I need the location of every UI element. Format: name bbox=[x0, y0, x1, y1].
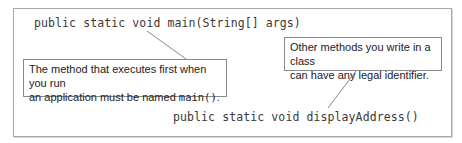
code-line-main: public static void main(String[] args) bbox=[34, 16, 301, 30]
callout-main-code: main() bbox=[179, 91, 217, 103]
callout-main-period: . bbox=[217, 91, 220, 103]
callout-other-line1: Other methods you write in a class bbox=[290, 40, 436, 68]
callout-main-line1: The method that executes first when you … bbox=[29, 62, 221, 90]
callout-main-method: The method that executes first when you … bbox=[23, 59, 227, 97]
callout-other-line2: can have any legal identifier. bbox=[290, 68, 436, 82]
callout-main-line2-text: an application must be named bbox=[29, 91, 179, 103]
callout-other-methods: Other methods you write in a class can h… bbox=[284, 37, 442, 71]
callout-main-line2: an application must be named main(). bbox=[29, 90, 221, 104]
code-line-display-address: public static void displayAddress() bbox=[173, 110, 419, 124]
